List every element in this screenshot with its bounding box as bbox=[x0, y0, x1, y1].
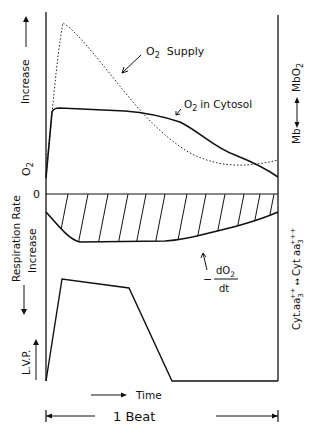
right-axis-mbo2-label: MbO2 bbox=[290, 63, 305, 92]
respiration-rate-curve bbox=[46, 212, 278, 242]
left-axis-up-arrowhead bbox=[23, 16, 29, 22]
beat-left-arrowhead bbox=[46, 414, 52, 419]
right-axis-cytochrome-label: Cyt.aa3++↔Cyt aa3+++ bbox=[289, 228, 305, 330]
right-axis-mb-label: Mb bbox=[290, 128, 302, 144]
lvp-label: L.V.P. bbox=[21, 350, 32, 375]
time-label: Time bbox=[135, 389, 162, 401]
zero-label: 0 bbox=[33, 188, 40, 201]
rate-minus-sign: − bbox=[203, 273, 212, 286]
rate-denominator: dt bbox=[219, 283, 229, 294]
o2-supply-pointer bbox=[122, 55, 141, 73]
time-arrowhead bbox=[121, 393, 127, 398]
mb-double-arrowhead-bottom bbox=[295, 122, 300, 128]
o2-cytosol-curve bbox=[46, 108, 278, 178]
mb-double-arrowhead-top bbox=[295, 97, 300, 103]
respiration-rate-label: Respiration Rate bbox=[10, 195, 22, 282]
respiration-down-arrowhead bbox=[21, 309, 27, 315]
o2-cytosol-label: O2in Cytosol bbox=[184, 98, 252, 113]
respiration-increase-label: Increase bbox=[26, 229, 38, 273]
left-axis-o2-label: O2 bbox=[20, 162, 35, 176]
left-axis-increase-label: Increase bbox=[19, 60, 31, 104]
lvp-curve bbox=[46, 279, 278, 381]
o2-supply-label: O2Supply bbox=[146, 45, 205, 60]
lvp-up-arrowhead bbox=[33, 339, 39, 345]
beat-right-arrowhead bbox=[272, 414, 278, 419]
diagram-canvas: O2Supply O2in Cytosol − dO2 dt O2 Increa… bbox=[0, 0, 316, 433]
beat-label: 1 Beat bbox=[113, 409, 155, 424]
rate-numerator: dO2 bbox=[216, 265, 235, 279]
